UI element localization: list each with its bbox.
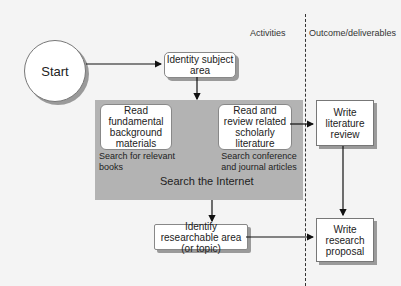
edges <box>0 0 401 286</box>
